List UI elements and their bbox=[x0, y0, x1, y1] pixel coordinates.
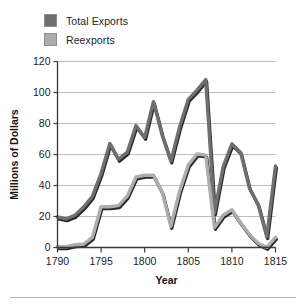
x-tick-label: 1800 bbox=[133, 255, 157, 267]
chart-figure: Total Exports Reexports 0204060801001201… bbox=[0, 0, 306, 304]
chart-plot-area: 020406080100120179017951800180518101815 … bbox=[0, 0, 306, 304]
y-tick-label: 60 bbox=[39, 148, 51, 160]
x-tick-label: 1795 bbox=[89, 255, 113, 267]
x-axis-title: Year bbox=[155, 274, 177, 286]
y-axis-title: Millions of Dollars bbox=[8, 109, 20, 200]
x-tick-label: 1810 bbox=[220, 255, 244, 267]
y-tick-label: 80 bbox=[39, 117, 51, 129]
footer-divider bbox=[10, 297, 296, 298]
y-tick-label: 0 bbox=[45, 241, 51, 253]
y-tick-label: 20 bbox=[39, 210, 51, 222]
y-tick-label: 120 bbox=[33, 55, 51, 67]
x-tick-label: 1790 bbox=[46, 255, 70, 267]
x-tick-label: 1815 bbox=[264, 255, 288, 267]
y-tick-label: 40 bbox=[39, 179, 51, 191]
y-tick-label: 100 bbox=[33, 86, 51, 98]
x-tick-label: 1805 bbox=[177, 255, 201, 267]
chart-series-layer bbox=[58, 80, 277, 250]
